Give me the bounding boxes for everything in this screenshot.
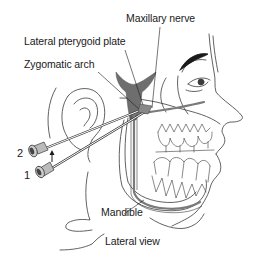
ear: [62, 89, 105, 162]
caption-lateral-view: Lateral view: [105, 236, 160, 247]
needle-label-1: 1: [24, 170, 30, 181]
maxillary-nerve-path: [134, 102, 204, 209]
label-maxillary-nerve: Maxillary nerve: [126, 13, 195, 24]
label-mandible: Mandible: [101, 207, 143, 218]
needle-2: [27, 108, 146, 158]
upper-teeth: [156, 124, 214, 152]
face-profile: [172, 34, 242, 226]
diagram-canvas: Maxillary nerve Lateral pterygoid plate …: [0, 0, 257, 256]
lower-teeth: [152, 158, 210, 199]
needle-label-2: 2: [17, 148, 23, 159]
eyebrow: [180, 54, 208, 70]
label-zygomatic-arch: Zygomatic arch: [24, 59, 94, 70]
arrow-up-icon: [50, 150, 55, 162]
label-lateral-pterygoid-plate: Lateral pterygoid plate: [24, 36, 126, 47]
